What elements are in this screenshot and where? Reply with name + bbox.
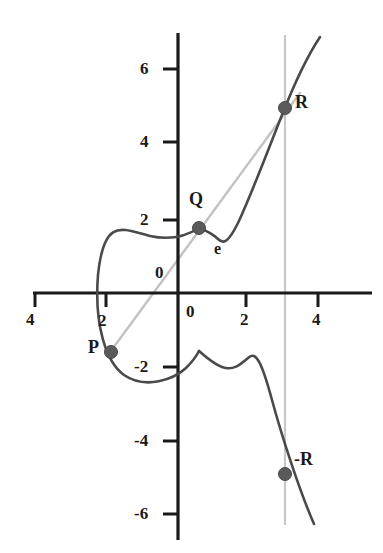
point-marker-negative-R[interactable] (279, 468, 292, 481)
point-label-Q: Q (189, 190, 203, 208)
y-tick-label-4: 4 (140, 133, 149, 150)
y-tick-label--6: -6 (134, 505, 148, 522)
point-label-R: R (295, 93, 308, 111)
y-tick-label-0: 0 (155, 264, 164, 281)
y-tick-label-2: 2 (140, 211, 149, 228)
x-tick-label-4: 4 (312, 311, 321, 328)
x-tick-label-0: 0 (186, 303, 195, 320)
y-tick-label-6: 6 (140, 60, 149, 77)
elliptic-curve-upper-branch (199, 37, 320, 242)
point-marker-P[interactable] (105, 346, 118, 359)
point-marker-R[interactable] (279, 102, 292, 115)
x-tick-label--2: 2 (98, 312, 107, 329)
elliptic-curve-figure: 4 2 0 2 4 6 4 2 0 -2 -4 -6 P Q R -R e (0, 0, 383, 553)
y-tick-label--4: -4 (134, 432, 148, 449)
x-tick-label-2: 2 (240, 311, 249, 328)
x-tick-label--4: 4 (26, 311, 35, 328)
curve-name-label: e (214, 241, 221, 257)
plot-canvas (0, 0, 383, 553)
point-marker-Q[interactable] (193, 222, 206, 235)
y-tick-label--2: -2 (134, 358, 148, 375)
point-label-P: P (88, 338, 99, 356)
point-label-negative-R: -R (294, 450, 313, 468)
elliptic-curve-lower-branch (199, 351, 314, 524)
